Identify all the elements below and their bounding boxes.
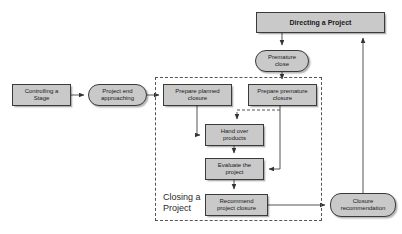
node-label: Evaluate the project (208, 162, 261, 175)
node-hand-over-products[interactable]: Hand over products (205, 124, 264, 146)
node-label: Directing a Project (259, 19, 382, 27)
closing-a-project-group-label: Closing a Project (163, 192, 201, 213)
node-label: Prepare planned closure (166, 88, 229, 101)
node-label: Hand over products (208, 128, 261, 141)
node-recommend-project-closure[interactable]: Recommend project closure (205, 194, 268, 216)
node-project-end-approaching[interactable]: Project end approaching (88, 84, 147, 106)
node-closure-recommendation[interactable]: Closure recommendation (330, 193, 396, 217)
node-label: Project end approaching (91, 88, 144, 101)
node-prepare-planned-closure[interactable]: Prepare planned closure (163, 84, 232, 106)
node-evaluate-the-project[interactable]: Evaluate the project (205, 158, 264, 180)
node-directing-a-project[interactable]: Directing a Project (256, 12, 385, 33)
node-label: Controlling a Stage (15, 88, 68, 101)
node-label: Premature close (258, 54, 306, 67)
node-prepare-premature-closure[interactable]: Prepare premature closure (248, 84, 317, 106)
node-label: Closure recommendation (333, 198, 393, 211)
node-premature-close[interactable]: Premature close (255, 50, 309, 72)
node-label: Recommend project closure (208, 198, 265, 211)
node-controlling-a-stage[interactable]: Controlling a Stage (12, 84, 71, 106)
diagram-canvas: Closing a Project Controlling a Stage Pr… (0, 0, 402, 234)
node-label: Prepare premature closure (251, 88, 314, 101)
